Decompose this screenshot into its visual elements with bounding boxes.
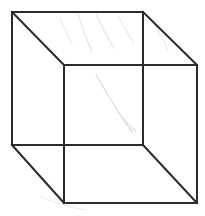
cube-figure — [0, 0, 205, 216]
cube-drawing-canvas — [0, 0, 205, 216]
